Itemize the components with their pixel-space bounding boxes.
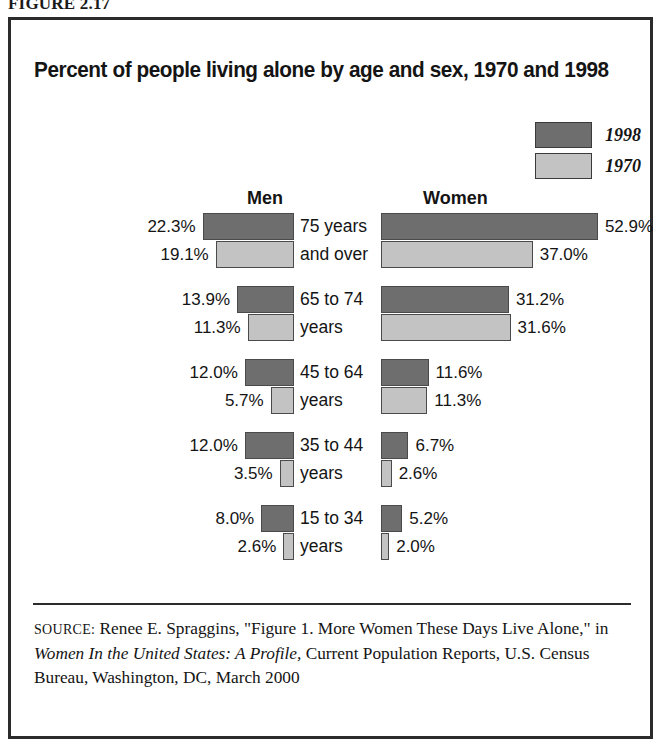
bar-line-women-1970: 37.0% [381, 241, 588, 268]
source-text-1: Renee E. Spraggins, "Figure 1. More Wome… [95, 619, 608, 638]
bar-line-women-1998: 11.6% [381, 359, 483, 386]
bar-value-men-1998: 22.3% [147, 217, 195, 237]
bar-women-1970 [381, 314, 511, 341]
bar-line-men-1970: 19.1% [161, 241, 295, 268]
bar-line-women-1970: 31.6% [381, 314, 566, 341]
bar-women-1998 [381, 286, 509, 313]
figure-label: FIGURE 2.17 [8, 0, 110, 14]
bar-men-1970 [280, 460, 294, 487]
figure-frame: Percent of people living alone by age an… [8, 17, 653, 739]
bar-value-women-1998: 6.7% [415, 436, 454, 456]
bar-women-1998 [381, 213, 598, 240]
age-group-row: 13.9%11.3%65 to 74years31.2%31.6% [11, 286, 650, 348]
bar-line-women-1970: 2.0% [381, 533, 435, 560]
chart-plot-area: 22.3%19.1%75 yearsand over52.9%37.0%13.9… [11, 213, 650, 581]
bar-men-1998 [261, 505, 294, 532]
bar-value-men-1970: 5.7% [225, 391, 264, 411]
bar-men-1970 [248, 314, 294, 341]
bar-line-men-1970: 2.6% [238, 533, 294, 560]
bar-line-men-1970: 11.3% [194, 314, 294, 341]
chart-legend: 1998 1970 [535, 121, 641, 183]
men-bars: 8.0%2.6% [11, 505, 294, 567]
bar-value-men-1970: 3.5% [234, 464, 273, 484]
legend-item-1998: 1998 [535, 121, 641, 149]
legend-item-1970: 1970 [535, 152, 641, 180]
age-group-row: 12.0%5.7%45 to 64years11.6%11.3% [11, 359, 650, 421]
age-group-row: 8.0%2.6%15 to 34years5.2%2.0% [11, 505, 650, 567]
bar-value-men-1998: 12.0% [190, 436, 238, 456]
bar-men-1998 [203, 213, 294, 240]
bar-men-1970 [271, 387, 294, 414]
bar-line-men-1970: 3.5% [234, 460, 294, 487]
bar-line-men-1998: 12.0% [190, 432, 294, 459]
age-group-row: 12.0%3.5%35 to 44years6.7%2.6% [11, 432, 650, 494]
bar-value-men-1970: 2.6% [238, 537, 277, 557]
women-bars: 6.7%2.6% [381, 432, 650, 494]
bar-value-women-1970: 2.6% [399, 464, 438, 484]
age-group-row: 22.3%19.1%75 yearsand over52.9%37.0% [11, 213, 650, 275]
men-bars: 12.0%5.7% [11, 359, 294, 421]
bar-women-1970 [381, 533, 389, 560]
bar-line-men-1998: 22.3% [147, 213, 294, 240]
bar-value-men-1970: 19.1% [161, 245, 209, 265]
source-note: SOURCE: Renee E. Spraggins, "Figure 1. M… [34, 617, 638, 690]
legend-swatch-1998 [535, 122, 592, 148]
bar-women-1998 [381, 432, 408, 459]
bar-women-1970 [381, 241, 533, 268]
bar-men-1998 [245, 432, 294, 459]
bar-value-women-1970: 37.0% [540, 245, 588, 265]
bar-line-women-1998: 52.9% [381, 213, 653, 240]
bar-value-women-1998: 11.6% [436, 363, 483, 383]
men-bars: 13.9%11.3% [11, 286, 294, 348]
women-bars: 5.2%2.0% [381, 505, 650, 567]
bar-line-men-1998: 8.0% [215, 505, 294, 532]
bar-line-men-1998: 12.0% [190, 359, 294, 386]
source-prefix: SOURCE: [34, 622, 95, 637]
bar-line-women-1998: 5.2% [381, 505, 448, 532]
bar-line-men-1970: 5.7% [225, 387, 294, 414]
age-group-label: 65 to 74years [300, 286, 380, 341]
bar-women-1970 [381, 460, 392, 487]
bar-men-1998 [237, 286, 294, 313]
bar-value-women-1970: 11.3% [434, 391, 481, 411]
women-bars: 52.9%37.0% [381, 213, 650, 275]
bar-value-men-1998: 13.9% [182, 290, 230, 310]
bar-men-1970 [283, 533, 294, 560]
bar-value-men-1998: 8.0% [215, 509, 254, 529]
bar-value-women-1998: 31.2% [516, 290, 564, 310]
bar-value-women-1970: 31.6% [518, 318, 566, 338]
bar-line-women-1998: 31.2% [381, 286, 564, 313]
bar-value-men-1970: 11.3% [194, 318, 241, 338]
bar-value-men-1998: 12.0% [190, 363, 238, 383]
legend-label-1970: 1970 [605, 156, 641, 177]
age-group-label: 45 to 64years [300, 359, 380, 414]
bar-value-women-1998: 52.9% [605, 217, 653, 237]
women-bars: 31.2%31.6% [381, 286, 650, 348]
age-group-label: 75 yearsand over [300, 213, 380, 268]
women-bars: 11.6%11.3% [381, 359, 650, 421]
bar-women-1998 [381, 505, 402, 532]
column-header-men: Men [247, 188, 283, 209]
legend-swatch-1970 [535, 153, 592, 179]
men-bars: 12.0%3.5% [11, 432, 294, 494]
bar-men-1998 [245, 359, 294, 386]
source-publication-title: Women In the United States: A Profile, [34, 644, 301, 663]
chart-title: Percent of people living alone by age an… [34, 58, 609, 83]
bar-line-women-1970: 2.6% [381, 460, 437, 487]
bar-line-men-1998: 13.9% [182, 286, 294, 313]
bar-women-1998 [381, 359, 429, 386]
bar-men-1970 [216, 241, 294, 268]
bar-line-women-1998: 6.7% [381, 432, 454, 459]
age-group-label: 35 to 44years [300, 432, 380, 487]
source-divider [33, 603, 631, 605]
bar-value-women-1970: 2.0% [396, 537, 435, 557]
bar-value-women-1998: 5.2% [409, 509, 448, 529]
men-bars: 22.3%19.1% [11, 213, 294, 275]
bar-women-1970 [381, 387, 427, 414]
bar-line-women-1970: 11.3% [381, 387, 481, 414]
age-group-label: 15 to 34years [300, 505, 380, 560]
legend-label-1998: 1998 [605, 125, 641, 146]
column-header-women: Women [423, 188, 488, 209]
